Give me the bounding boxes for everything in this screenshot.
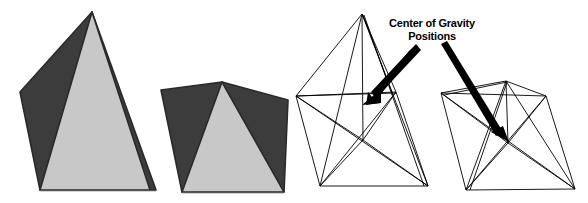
figure-root: Center of Gravity Positions (0, 0, 588, 203)
center-of-gravity-label-line1: Center of Gravity (376, 17, 488, 30)
wf-tilted-edge-apex-back (506, 81, 546, 96)
solid-pyramid-upright (20, 12, 156, 191)
wf-upright-median-front (320, 140, 363, 186)
wf-tilted-edge-apex-front-right (506, 81, 575, 189)
wf-upright-median-front-right (363, 140, 428, 186)
wf-tilted-median-back (508, 96, 546, 143)
wf-upright-axis-vertical (362, 14, 363, 140)
center-of-gravity-label: Center of Gravity Positions (376, 17, 488, 43)
pyramids-diagram (0, 0, 588, 203)
wf-tilted-median-front-right (508, 143, 575, 189)
arrow-to-right-cog-shaft (441, 41, 503, 136)
wireframe-pyramid-tilted (441, 81, 575, 190)
solid-pyramid-tilted (161, 82, 288, 193)
wf-tilted-axis-vertical (506, 81, 508, 143)
center-of-gravity-label-line2: Positions (376, 30, 488, 43)
